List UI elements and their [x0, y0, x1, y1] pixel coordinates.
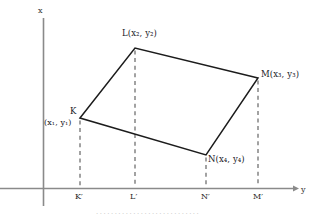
- vertex-label-l: L(x₂, y₂): [122, 29, 157, 38]
- geometry-figure: x y K (x₁, y₁) L(x₂, y₂) M(x₃, y₃) N(x₄,…: [0, 0, 313, 223]
- foot-label-k-prime: K′: [75, 193, 83, 201]
- bottom-caption-text: ····························: [96, 213, 200, 218]
- vertex-label-n: N(x₄, y₄): [208, 155, 245, 164]
- foot-label-n-prime: N′: [201, 193, 210, 201]
- vertical-axis-label: x: [38, 7, 43, 15]
- vertex-label-k: K: [70, 107, 76, 116]
- quadrilateral-klmn: [80, 48, 258, 155]
- bottom-caption-strip: ····························: [0, 213, 313, 223]
- foot-label-l-prime: L′: [130, 193, 137, 201]
- horizontal-axis-arrow: [293, 186, 299, 192]
- vertex-label-m: M(x₃, y₃): [261, 70, 299, 79]
- foot-label-m-prime: M′: [253, 193, 263, 201]
- horizontal-axis-label: y: [301, 186, 306, 194]
- vertex-coords-k: (x₁, y₁): [44, 119, 72, 127]
